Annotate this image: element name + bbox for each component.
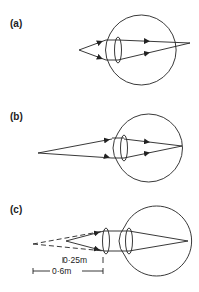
cornea: [119, 226, 125, 256]
eyeball: [125, 206, 192, 276]
ray: [38, 153, 112, 158]
panel-b-eye: [38, 114, 183, 182]
eye-optics-diagram: 0·25m 0·6m: [0, 0, 199, 292]
ray: [129, 231, 188, 241]
cornea: [106, 34, 111, 66]
near-point-dimension: 0·25m: [63, 255, 87, 265]
cornea: [113, 133, 118, 163]
ray: [124, 139, 182, 146]
ray: [66, 231, 104, 241]
ray: [129, 241, 188, 251]
corrective-lens: [103, 228, 110, 254]
virtual-ray: [33, 244, 104, 251]
ray: [38, 139, 112, 153]
far-distance-dimension: 0·6m: [52, 266, 71, 276]
ray: [124, 146, 182, 158]
ray: [118, 43, 190, 60]
ray: [118, 40, 190, 43]
lens: [126, 228, 133, 254]
ray: [79, 40, 106, 50]
eyeball: [110, 15, 176, 85]
ray: [79, 50, 106, 60]
panel-a-eye: [79, 15, 190, 85]
